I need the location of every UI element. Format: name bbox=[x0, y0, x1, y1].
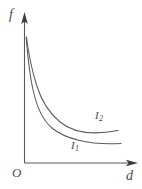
x-axis-label: d bbox=[126, 169, 133, 183]
curve-label-i1-subscript: 1 bbox=[75, 144, 79, 153]
curve-label-i1: I1 bbox=[71, 140, 79, 153]
figure-container: f d O I2 I1 bbox=[0, 0, 142, 189]
curve-label-i2-subscript: 2 bbox=[99, 114, 103, 123]
y-axis-label: f bbox=[9, 8, 13, 22]
origin-label: O bbox=[12, 166, 21, 179]
curve-label-i2: I2 bbox=[95, 110, 103, 123]
graph-canvas bbox=[0, 0, 142, 189]
curve-lower-i1 bbox=[26, 37, 121, 144]
curve-upper-i2 bbox=[26, 37, 118, 133]
